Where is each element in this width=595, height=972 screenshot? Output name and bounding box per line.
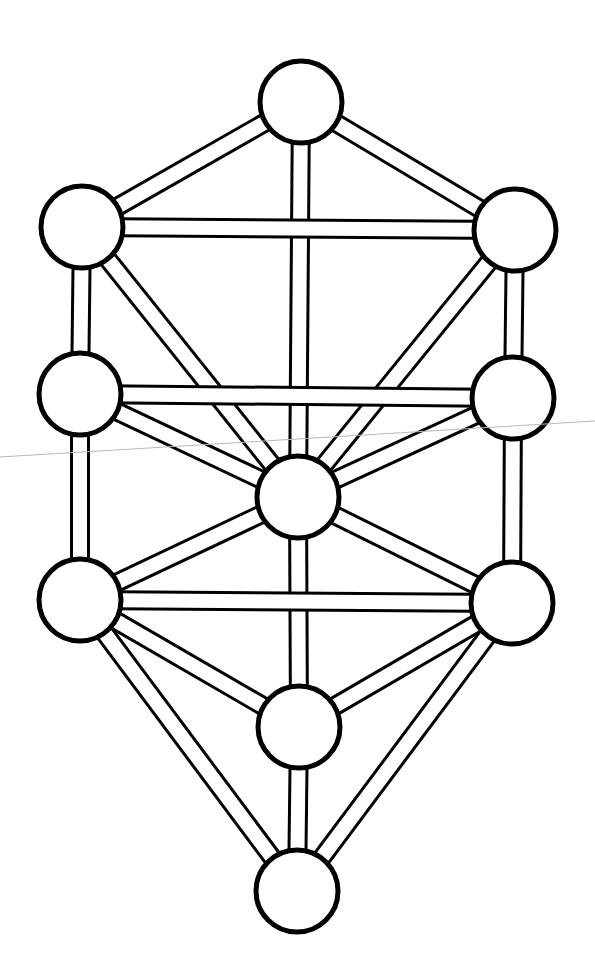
path-n5-n4 [80, 394, 513, 398]
node-middle-left [39, 353, 121, 435]
path-n3-n2 [82, 227, 515, 230]
path-fill [80, 394, 513, 398]
node-lower-center [258, 686, 340, 768]
tree-of-life-diagram [0, 0, 595, 972]
path-n1-n6 [298, 102, 301, 497]
node-lower-right [471, 562, 553, 644]
path-n8-n7 [80, 600, 512, 603]
node-upper-right [474, 189, 556, 271]
node-bottom [256, 850, 338, 932]
node-center [257, 456, 339, 538]
node-middle-right [472, 357, 554, 439]
node-lower-left [39, 559, 121, 641]
path-fill [298, 102, 301, 497]
path-fill [80, 600, 512, 603]
node-upper-left [41, 186, 123, 268]
path-fill [82, 227, 515, 230]
node-top [260, 61, 342, 143]
